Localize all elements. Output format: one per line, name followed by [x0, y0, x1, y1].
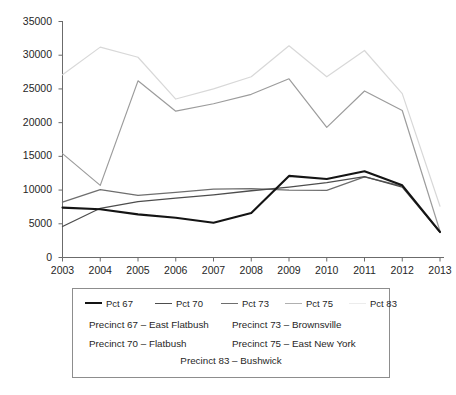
x-tick-label-2012: 2012	[382, 264, 422, 276]
legend-desc-pct67: Precinct 67 – East Flatbush	[89, 319, 209, 330]
y-tick-label-25000: 25000	[0, 82, 52, 94]
legend-description-grid: Precinct 67 – East Flatbush Precinct 73 …	[73, 313, 389, 370]
legend-key-row: Pct 67Pct 70Pct 73Pct 75Pct 83	[73, 293, 389, 313]
series-line-pct-75	[63, 79, 441, 231]
legend-key-label: Pct 67	[106, 298, 133, 309]
y-tick-label-0: 0	[0, 251, 52, 263]
legend-desc-pct70: Precinct 70 – Flatbush	[89, 338, 186, 349]
legend-swatch-icon	[85, 302, 102, 304]
series-line-pct-67	[63, 171, 441, 232]
x-tick-label-2008: 2008	[231, 264, 271, 276]
legend-desc-pct83: Precinct 83 – Bushwick	[73, 351, 389, 370]
legend-description-row-3: Precinct 83 – Bushwick	[73, 351, 389, 370]
legend-entry-pct-67: Pct 67	[85, 298, 133, 309]
data-series-layer	[63, 46, 441, 233]
legend-description-row-1: Precinct 67 – East Flatbush Precinct 73 …	[73, 313, 389, 332]
legend-swatch-icon	[155, 303, 172, 304]
y-axis-ticks	[59, 22, 63, 258]
legend-swatch-icon	[285, 303, 302, 304]
legend-entry-pct-70: Pct 70	[155, 298, 203, 309]
legend-key-label: Pct 83	[370, 298, 397, 309]
legend-entry-pct-73: Pct 73	[221, 298, 269, 309]
x-tick-label-2005: 2005	[118, 264, 158, 276]
y-tick-label-20000: 20000	[0, 116, 52, 128]
y-tick-label-5000: 5000	[0, 217, 52, 229]
legend-desc-pct75: Precinct 75 – East New York	[232, 338, 356, 349]
y-tick-label-35000: 35000	[0, 15, 52, 27]
y-tick-label-15000: 15000	[0, 149, 52, 161]
y-tick-label-30000: 30000	[0, 48, 52, 60]
legend-swatch-icon	[221, 303, 238, 304]
x-tick-label-2010: 2010	[307, 264, 347, 276]
legend-desc-pct73: Precinct 73 – Brownsville	[232, 319, 341, 330]
legend-key-label: Pct 73	[242, 298, 269, 309]
x-tick-label-2004: 2004	[80, 264, 120, 276]
x-tick-label-2009: 2009	[269, 264, 309, 276]
x-tick-label-2003: 2003	[43, 264, 83, 276]
legend-entry-pct-83: Pct 83	[349, 298, 397, 309]
legend-key-label: Pct 70	[176, 298, 203, 309]
x-axis-ticks	[63, 258, 441, 262]
legend-swatch-icon	[349, 303, 366, 304]
x-tick-label-2011: 2011	[345, 264, 385, 276]
x-tick-label-2007: 2007	[194, 264, 234, 276]
x-tick-label-2013: 2013	[420, 264, 456, 276]
legend-key-label: Pct 75	[306, 298, 333, 309]
y-tick-label-10000: 10000	[0, 183, 52, 195]
legend-description-row-2: Precinct 70 – Flatbush Precinct 75 – Eas…	[73, 332, 389, 351]
chart-legend: Pct 67Pct 70Pct 73Pct 75Pct 83 Precinct …	[72, 288, 390, 378]
x-tick-label-2006: 2006	[156, 264, 196, 276]
series-line-pct-70	[63, 177, 441, 233]
legend-entry-pct-75: Pct 75	[285, 298, 333, 309]
